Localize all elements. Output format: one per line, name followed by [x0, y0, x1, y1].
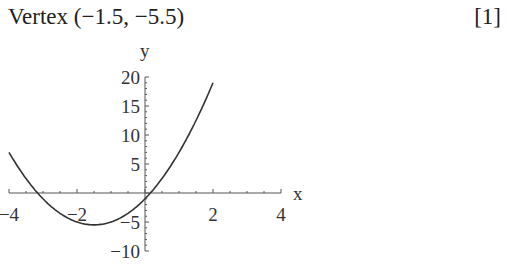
y-tick-label: 15: [121, 96, 140, 117]
x-tick-label: −4: [0, 204, 20, 225]
x-tick-label: 4: [276, 204, 286, 225]
y-tick-label: −10: [110, 241, 140, 262]
y-tick-label: 10: [121, 125, 140, 146]
x-tick-label: 2: [208, 204, 218, 225]
x-axis-label: x: [293, 183, 303, 204]
y-tick-label: 20: [121, 67, 140, 88]
parabola-curve: [9, 83, 213, 225]
axes: [9, 77, 281, 251]
y-tick-label: −5: [120, 212, 140, 233]
parabola-graph: −4−2242015105−5−10 x y: [0, 0, 507, 266]
y-axis-label: y: [140, 40, 150, 61]
y-tick-label: 5: [131, 154, 141, 175]
